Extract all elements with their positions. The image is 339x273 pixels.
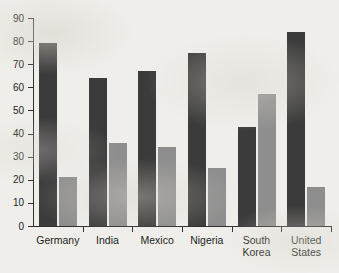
bar-india-series-1[interactable] <box>89 78 107 226</box>
y-tick-label: 50 <box>13 106 24 116</box>
y-tick-40: 40 <box>28 134 33 135</box>
x-label-germany: Germany <box>33 234 83 246</box>
y-tick-label: 90 <box>13 14 24 24</box>
y-tick-label: 80 <box>13 37 24 47</box>
plot-area: 9080706050403020100 GermanyIndiaMexicoNi… <box>33 18 331 227</box>
bar-united-states-series-1[interactable] <box>287 32 305 226</box>
y-tick-label: 30 <box>13 152 24 162</box>
y-tick-60: 60 <box>28 87 33 88</box>
group-separator-1 <box>83 226 84 232</box>
y-tick-label: 70 <box>13 60 24 70</box>
group-separator-4 <box>232 226 233 232</box>
bar-nigeria-series-1[interactable] <box>188 53 206 226</box>
y-tick-50: 50 <box>28 110 33 111</box>
y-tick-80: 80 <box>28 41 33 42</box>
y-tick-label: 10 <box>13 198 24 208</box>
y-tick-label: 0 <box>18 222 24 232</box>
x-label-south-korea: South Korea <box>232 234 282 258</box>
bar-south-korea-series-2[interactable] <box>258 94 276 226</box>
x-label-india: India <box>83 234 133 246</box>
y-tick-label: 60 <box>13 83 24 93</box>
bar-nigeria-series-2[interactable] <box>208 168 226 226</box>
bar-mexico-series-2[interactable] <box>158 147 176 226</box>
group-separator-end <box>331 226 332 232</box>
y-tick-30: 30 <box>28 157 33 158</box>
y-tick-label: 40 <box>13 129 24 139</box>
y-tick-10: 10 <box>28 203 33 204</box>
bar-chart: 9080706050403020100 GermanyIndiaMexicoNi… <box>0 0 339 273</box>
bar-mexico-series-1[interactable] <box>138 71 156 226</box>
bar-germany-series-1[interactable] <box>39 43 57 226</box>
bar-united-states-series-2[interactable] <box>307 187 325 226</box>
y-tick-20: 20 <box>28 180 33 181</box>
bar-india-series-2[interactable] <box>109 143 127 226</box>
y-tick-70: 70 <box>28 64 33 65</box>
x-label-mexico: Mexico <box>132 234 182 246</box>
x-label-nigeria: Nigeria <box>182 234 232 246</box>
x-label-united-states: United States <box>281 234 331 258</box>
y-tick-0: 0 <box>28 226 33 227</box>
group-separator-2 <box>132 226 133 232</box>
y-tick-90: 90 <box>28 18 33 19</box>
group-separator-5 <box>281 226 282 232</box>
bar-south-korea-series-1[interactable] <box>238 127 256 226</box>
bar-germany-series-2[interactable] <box>59 177 77 226</box>
y-tick-label: 20 <box>13 175 24 185</box>
y-axis-line <box>33 18 34 227</box>
group-separator-3 <box>182 226 183 232</box>
